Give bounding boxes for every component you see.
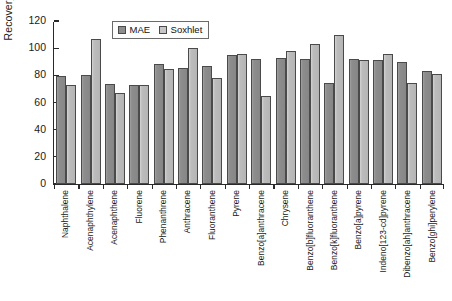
x-tick-mark [347,184,348,189]
bar-groups [54,22,444,184]
bar-soxhlet [359,60,369,184]
x-label-cell: Benzo[k]fluoranthene [322,190,346,295]
bar-soxhlet [286,51,296,184]
bar-group [152,22,176,184]
x-axis-tick-label: Pyrene [231,190,241,217]
x-label-cell: Dibenzo[ah]anthracene [395,190,419,295]
bar-soxhlet [66,85,76,184]
x-label-cell: Fluorene [126,190,150,295]
x-axis-tick-label: Chrysene [280,190,290,226]
x-label-cell: Naphthalene [53,190,77,295]
x-axis-tick-label: Anthracene [182,190,192,233]
bar-group [54,22,78,184]
x-tick-mark [322,184,323,189]
x-tick-mark [420,184,421,189]
bar-mae [129,85,139,184]
bar-group [322,22,346,184]
bar-soxhlet [164,69,174,184]
x-axis-tick-label: Benzo[ghi]perylene [427,190,437,263]
bar-mae [276,58,286,184]
x-label-cell: Benzo[a]pyrene [346,190,370,295]
x-axis-tick-label: Fluorene [134,190,144,223]
bar-soxhlet [139,85,149,184]
bar-group [176,22,200,184]
legend-label-soxhlet: Soxhlet [171,24,203,35]
x-tick-mark [371,184,372,189]
x-axis-tick-label: Benzo[a]pyrene [353,190,363,249]
legend-swatch-mae-icon [118,26,126,34]
x-axis-tick-label: Benzo[k]fluoranthene [329,190,339,270]
bar-mae [251,59,261,184]
x-label-cell: Indeno[123-cd]pyrene [371,190,395,295]
bar-group [395,22,419,184]
x-axis-tick-label: Dibenzo[ah]anthracene [402,190,412,278]
x-axis-tick-label: Fluoranthene [207,190,217,240]
x-tick-mark [443,184,444,189]
y-tick-label: 20 [34,150,46,162]
x-axis-tick-label: Naphthalene [60,190,70,238]
bar-mae [373,60,383,184]
bar-soxhlet [115,93,125,184]
x-label-cell: Anthracene [175,190,199,295]
legend-item: MAE [118,24,150,35]
x-axis-tick-label: Indeno[123-cd]pyrene [378,190,388,272]
x-axis-tick-label: Benzo[b]fluoranthene [305,190,315,271]
bar-group [347,22,371,184]
bar-soxhlet [261,96,271,184]
bar-soxhlet [334,35,344,184]
bar-soxhlet [383,54,393,184]
y-tick-label: 100 [28,41,46,53]
x-tick-mark [176,184,177,189]
x-tick-mark [249,184,250,189]
x-label-cell: Fluoranthene [200,190,224,295]
x-tick-mark [298,184,299,189]
bar-mae [349,59,359,184]
x-tick-mark [152,184,153,189]
bar-mae [81,75,91,184]
recovery-bar-chart: Recovery (%) 020406080100120 Naphthalene… [0,0,452,301]
bar-mae [105,84,115,184]
bar-soxhlet [91,39,101,184]
bar-group [103,22,127,184]
x-tick-mark [200,184,201,189]
legend-item: Soxhlet [159,24,202,35]
bar-soxhlet [407,83,417,184]
y-tick-label: 80 [34,68,46,80]
x-tick-mark [273,184,274,189]
bar-soxhlet [310,44,320,184]
legend: MAE Soxhlet [112,21,209,39]
x-label-cell: Benzo[b]fluoranthene [297,190,321,295]
bar-group [78,22,102,184]
x-label-cell: Benzo[a]anthracene [249,190,273,295]
x-label-cell: Acenaphthene [102,190,126,295]
bar-group [249,22,273,184]
x-axis-tick-label: Benzo[a]anthracene [256,190,266,266]
x-label-cell: Chrysene [273,190,297,295]
bar-group [298,22,322,184]
y-tick-label: 120 [28,14,46,26]
x-tick-mark [103,184,104,189]
bar-group [127,22,151,184]
x-tick-mark [127,184,128,189]
x-tick-mark [395,184,396,189]
bar-group [420,22,444,184]
bar-mae [178,68,188,184]
x-tick-mark [78,184,79,189]
bar-mae [56,76,66,184]
bar-mae [300,59,310,184]
bar-mae [397,62,407,184]
y-axis-title: Recovery (%) [2,0,16,68]
bar-soxhlet [432,74,442,184]
plot-area: 020406080100120 [53,22,444,185]
y-tick-label: 60 [34,96,46,108]
x-label-cell: Benzo[ghi]perylene [420,190,444,295]
y-tick-label: 0 [40,177,46,189]
bar-mae [154,64,164,184]
x-axis-tick-label: Phenanthrene [158,190,168,243]
x-tick-mark [54,184,55,189]
bar-group [225,22,249,184]
bar-group [200,22,224,184]
bar-group [273,22,297,184]
bar-mae [422,71,432,184]
bar-soxhlet [212,78,222,184]
